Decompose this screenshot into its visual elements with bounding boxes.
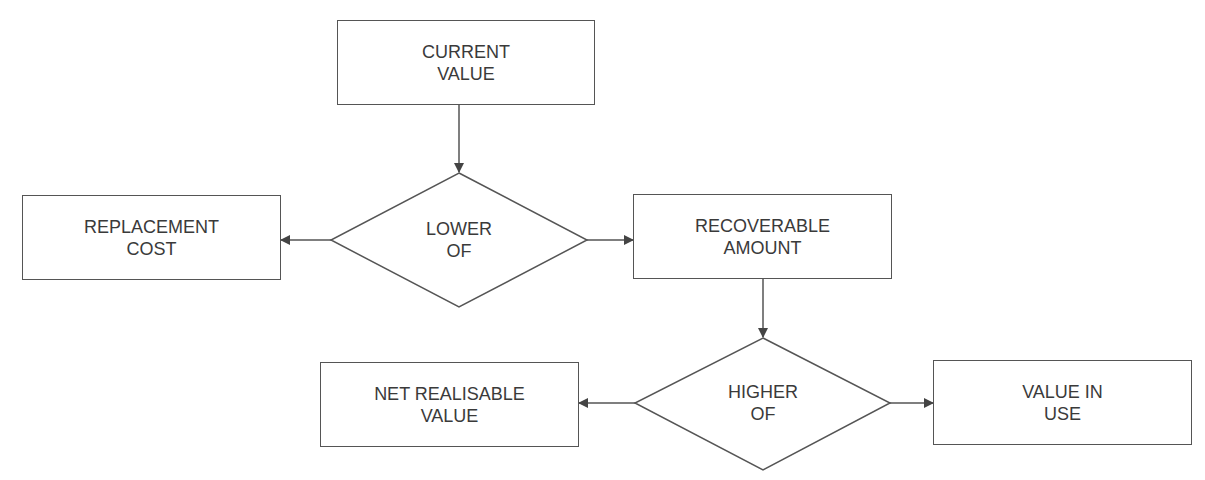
replacement-cost-box: REPLACEMENT COST: [22, 195, 281, 280]
higher-of-line2: OF: [728, 403, 798, 425]
value-in-use-line2: USE: [1022, 403, 1103, 425]
nrv-line2: VALUE: [374, 405, 525, 427]
value-in-use-line1: VALUE IN: [1022, 381, 1103, 403]
lower-of-line1: LOWER: [426, 218, 492, 240]
current-value-line2: VALUE: [422, 63, 510, 85]
value-in-use-box: VALUE IN USE: [933, 360, 1192, 445]
net-realisable-value-box: NET REALISABLE VALUE: [320, 362, 579, 447]
replacement-cost-line2: COST: [84, 238, 219, 260]
recoverable-amount-box: RECOVERABLE AMOUNT: [633, 194, 892, 279]
lower-of-line2: OF: [426, 240, 492, 262]
lower-of-label: LOWER OF: [400, 215, 518, 265]
nrv-line1: NET REALISABLE: [374, 383, 525, 405]
recoverable-amount-line2: AMOUNT: [695, 237, 830, 259]
current-value-box: CURRENT VALUE: [337, 20, 595, 105]
current-value-line1: CURRENT: [422, 41, 510, 63]
recoverable-amount-line1: RECOVERABLE: [695, 215, 830, 237]
replacement-cost-line1: REPLACEMENT: [84, 216, 219, 238]
higher-of-line1: HIGHER: [728, 381, 798, 403]
higher-of-label: HIGHER OF: [703, 378, 823, 428]
